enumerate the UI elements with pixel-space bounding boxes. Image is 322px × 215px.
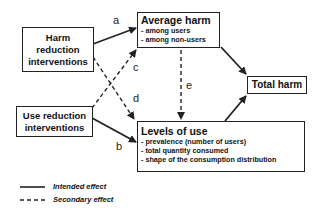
edge-levels-to-total-arrow: [225, 96, 246, 121]
node-total-harm: Total harm: [247, 76, 307, 94]
node-harm-reduction-line-1: Harm: [23, 32, 93, 44]
edge-c-arrow: [92, 50, 136, 108]
node-use-reduction-line-1: Use reduction: [17, 110, 92, 122]
node-levels-of-use: Levels of use - prevalence (number of us…: [137, 121, 305, 172]
node-levels-of-use-title: Levels of use: [141, 125, 301, 137]
node-levels-of-use-item: - prevalence (number of users): [141, 137, 301, 146]
node-harm-reduction: Harm reduction interventions: [22, 27, 94, 72]
node-use-reduction-line-2: interventions: [17, 122, 92, 134]
node-harm-reduction-line-2: reduction: [23, 44, 93, 56]
node-average-harm-item: - among non-users: [141, 35, 216, 44]
node-average-harm-item: - among users: [141, 26, 216, 35]
node-average-harm: Average harm - among users - among non-u…: [137, 12, 220, 48]
edge-a-arrow: [93, 28, 136, 44]
node-average-harm-title: Average harm: [141, 14, 216, 26]
legend-intended-label: Intended effect: [53, 182, 106, 191]
legend-secondary-label: Secondary effect: [53, 195, 113, 204]
node-levels-of-use-item: - shape of the consumption distribution: [141, 155, 301, 164]
edge-average-to-total-arrow: [221, 47, 246, 74]
node-harm-reduction-line-3: interventions: [23, 56, 93, 68]
node-use-reduction: Use reduction interventions: [16, 106, 93, 137]
edge-b-arrow: [92, 118, 136, 142]
edge-label-a: a: [113, 14, 119, 26]
node-levels-of-use-item: - total quantity consumed: [141, 146, 301, 155]
edge-label-b: b: [116, 140, 122, 152]
edge-d-arrow: [93, 57, 134, 119]
edge-label-d: d: [133, 92, 139, 104]
edge-label-c: c: [133, 61, 139, 73]
edge-label-e: e: [186, 79, 192, 91]
node-total-harm-title: Total harm: [252, 79, 302, 90]
